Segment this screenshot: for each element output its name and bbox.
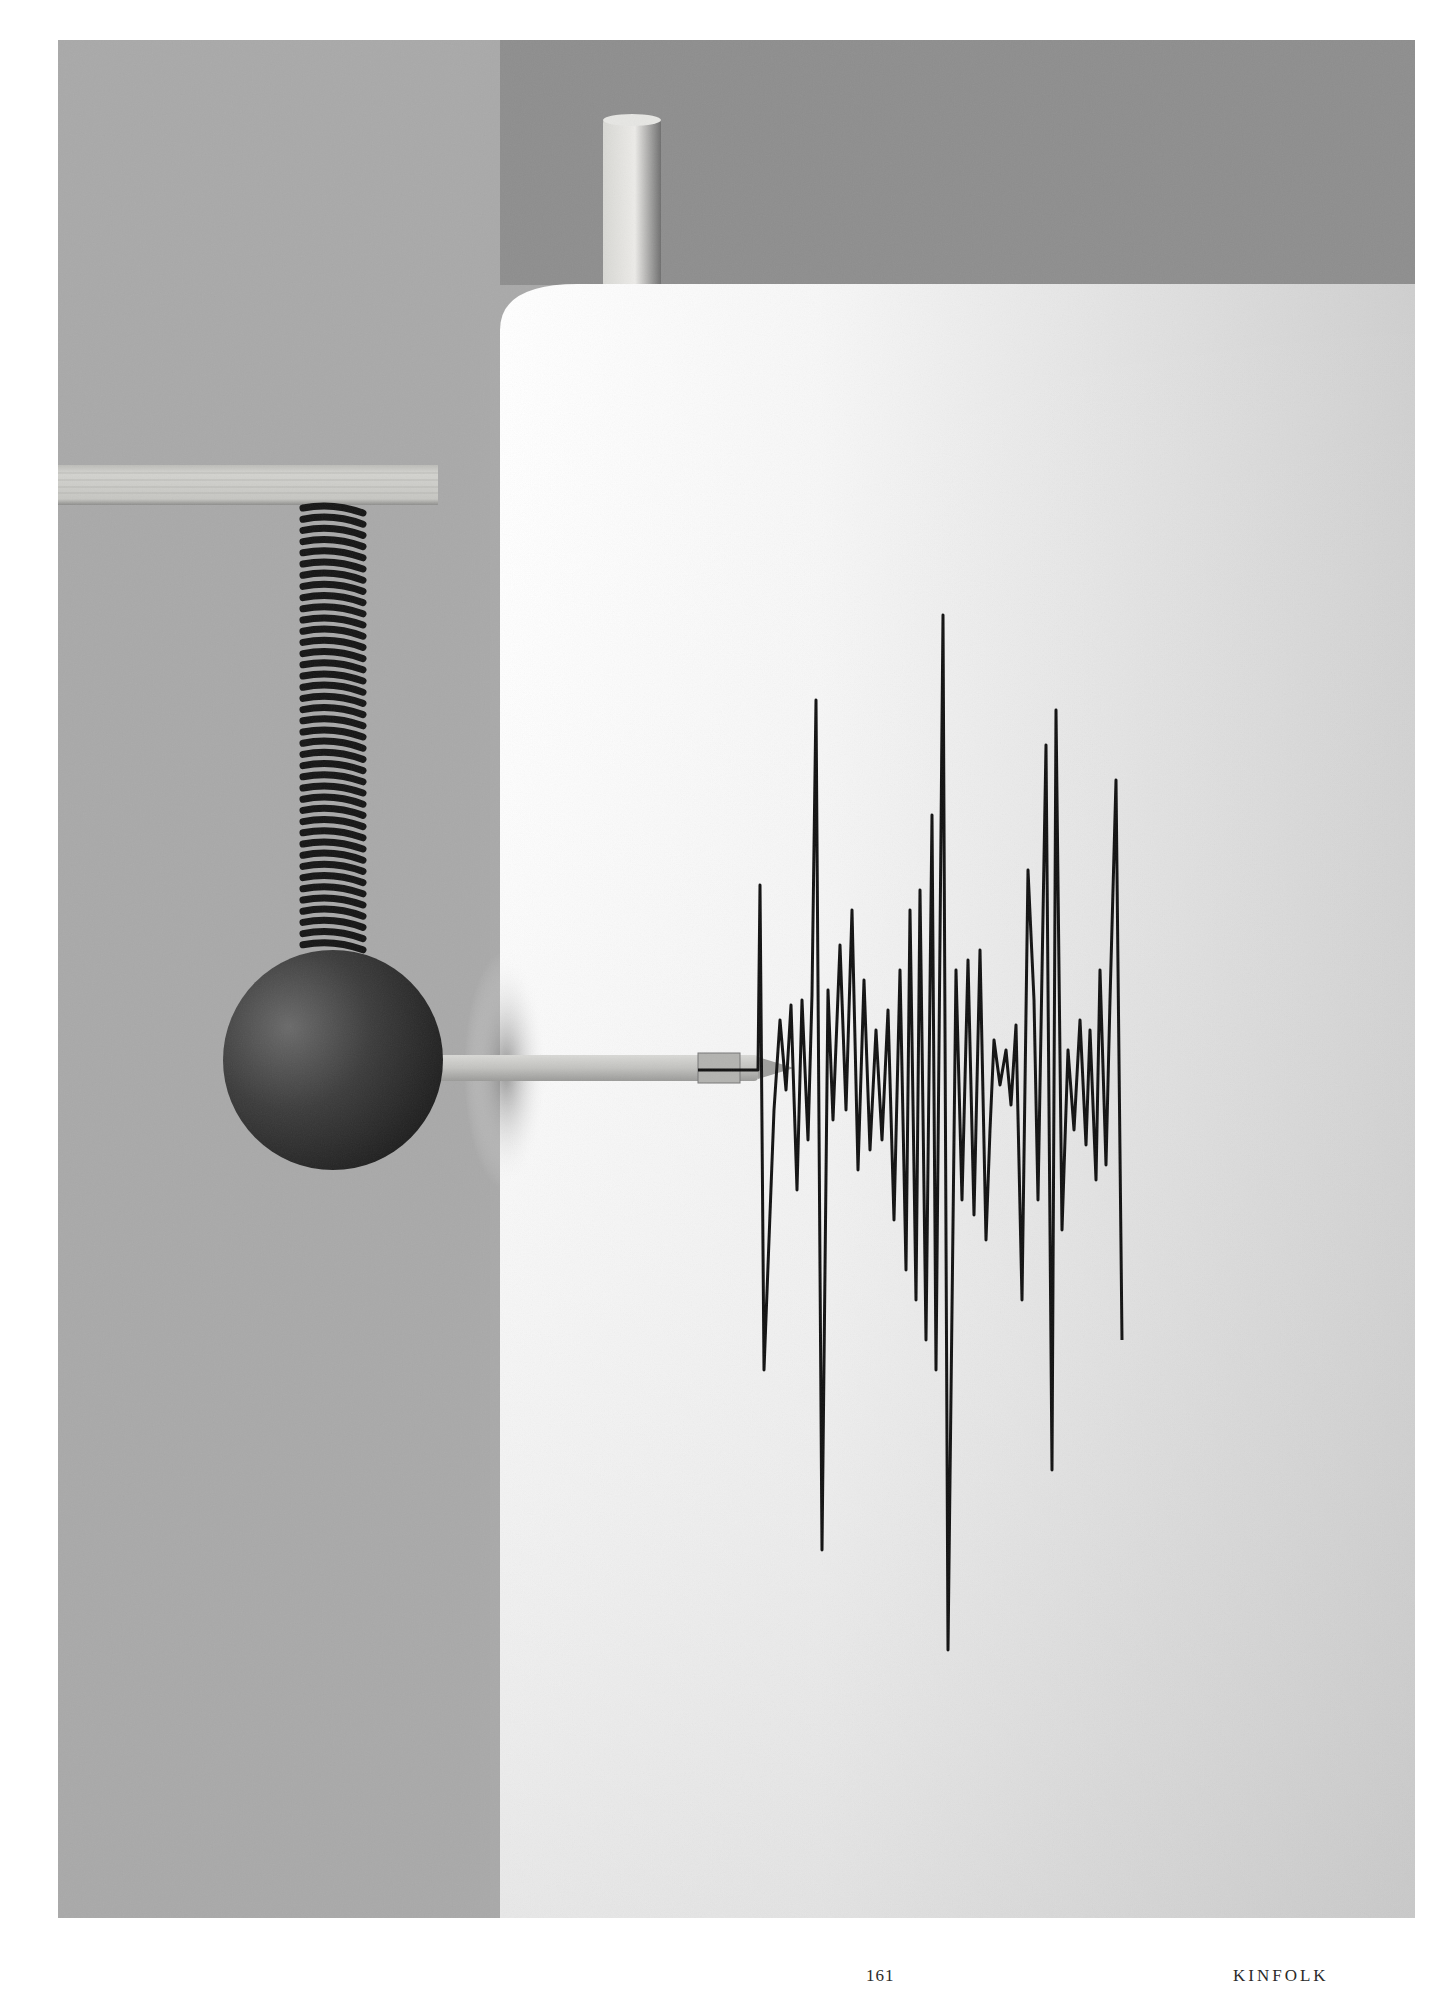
page-number: 161 <box>866 1966 895 1986</box>
photograph <box>58 40 1415 1918</box>
publication-name: KINFOLK <box>1233 1966 1329 1986</box>
seismograph-illustration <box>58 40 1415 1918</box>
film-grain <box>58 40 1415 1918</box>
